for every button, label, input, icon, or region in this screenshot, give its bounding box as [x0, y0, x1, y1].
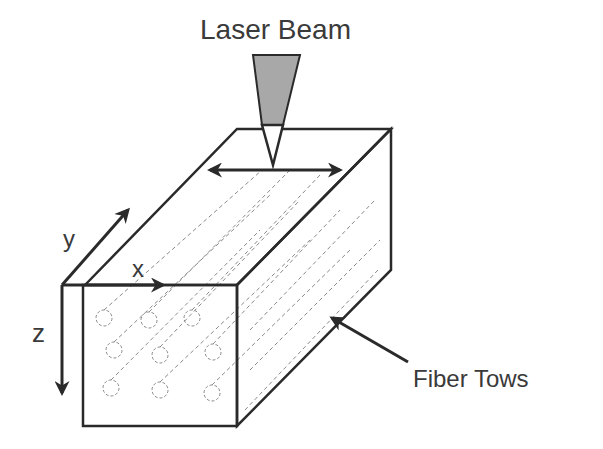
- front-face: [83, 285, 237, 426]
- fiber-tows-top: [104, 170, 380, 410]
- fiber-tows-pointer-arrow: [332, 318, 408, 362]
- fiber-cross-sections: [96, 310, 221, 401]
- coordinate-axes: [62, 210, 163, 393]
- laser-beam-label: Laser Beam: [200, 14, 351, 46]
- composite-block: [83, 129, 391, 426]
- fiber-tows-label: Fiber Tows: [413, 365, 529, 393]
- axis-y-label: y: [63, 225, 75, 253]
- axis-z-label: z: [32, 318, 45, 349]
- axis-x-label: x: [132, 255, 144, 283]
- laser-beam-icon: [253, 55, 300, 165]
- right-face: [237, 129, 391, 426]
